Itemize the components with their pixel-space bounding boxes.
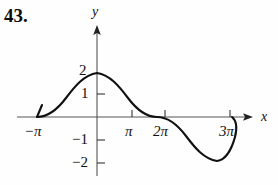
y-tick-label-2: 2 bbox=[79, 63, 87, 78]
y-axis bbox=[93, 25, 101, 176]
x-axis-label: x bbox=[261, 110, 267, 124]
sine-curve-graph bbox=[0, 0, 278, 185]
y-tick-marks bbox=[97, 94, 105, 163]
y-tick-label-1: 1 bbox=[81, 86, 89, 101]
y-tick-label-minus-2: −2 bbox=[72, 155, 88, 170]
x-tick-label-minus-pi: −π bbox=[24, 124, 42, 139]
x-tick-label-2pi: 2π bbox=[153, 124, 168, 139]
x-tick-label-3pi: 3π bbox=[219, 124, 234, 139]
curve-left-endpoint bbox=[37, 105, 42, 117]
y-tick-label-minus-1: −1 bbox=[72, 132, 88, 147]
figure-page: 43. y x 2 1 −1 −2 bbox=[0, 0, 278, 185]
x-axis bbox=[17, 113, 253, 121]
x-tick-label-pi: π bbox=[125, 124, 133, 139]
y-axis-label: y bbox=[92, 5, 98, 19]
